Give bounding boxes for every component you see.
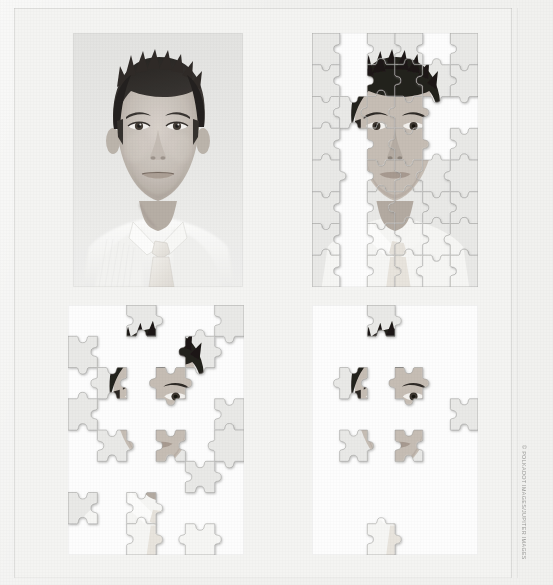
sheet-right-edge <box>511 8 512 578</box>
portrait-photo-artwork <box>73 33 243 287</box>
sheet-top-edge <box>14 8 512 9</box>
puzzle-svg <box>312 305 478 555</box>
panel-original-photograph <box>73 33 243 287</box>
panel-puzzle-stage-3 <box>312 305 478 555</box>
puzzle-board-stage-2 <box>68 305 244 555</box>
sheet-left-edge <box>14 8 15 578</box>
panel-puzzle-stage-2 <box>68 305 244 555</box>
photo-credit: © POLKADOT IMAGES/JUPITER IMAGES <box>521 445 527 575</box>
puzzle-svg <box>68 305 244 555</box>
portrait-photo <box>73 33 243 287</box>
page-background: © POLKADOT IMAGES/JUPITER IMAGES <box>0 0 553 585</box>
puzzle-svg <box>312 33 478 287</box>
panel-puzzle-stage-1 <box>312 33 478 287</box>
puzzle-board-stage-3 <box>312 305 478 555</box>
puzzle-board-stage-1 <box>312 33 478 287</box>
page-fold-line <box>517 8 518 578</box>
